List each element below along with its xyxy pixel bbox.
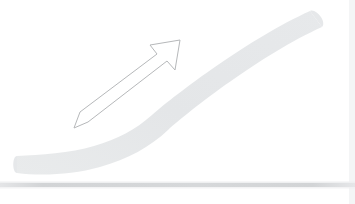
growth-ramp-band [13, 11, 323, 175]
figure-canvas: A pale grey band curving upward from low… [0, 0, 355, 204]
baseline-rule-highlight [0, 182, 355, 184]
ramp-band-left-cap [13, 156, 17, 173]
page-right-edge [349, 0, 355, 204]
baseline-rule-shadow [0, 187, 355, 188]
ramp-band-shape [17, 11, 322, 175]
baseline-rule [0, 183, 355, 187]
growth-ramp-illustration [0, 0, 355, 204]
